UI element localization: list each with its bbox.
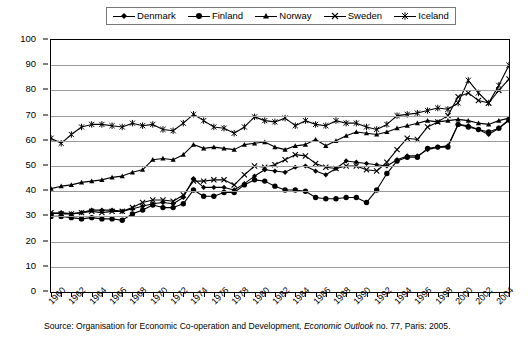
y-tick-mark xyxy=(43,39,48,40)
legend-item-sweden[interactable]: Sweden xyxy=(324,11,382,21)
legend-label: Sweden xyxy=(348,11,382,21)
asterisk-icon xyxy=(394,11,416,21)
source-text-lead: Source: Organisation for Economic Co-ope… xyxy=(44,321,304,331)
y-tick-label: 20 xyxy=(25,236,36,246)
y-tick-label: 40 xyxy=(25,185,36,195)
plot-area xyxy=(50,39,510,293)
grid-line xyxy=(51,65,509,66)
grid-line xyxy=(51,90,509,91)
grid-line xyxy=(51,242,509,243)
y-tick-label: 90 xyxy=(25,59,36,69)
y-tick-mark xyxy=(43,165,48,166)
triangle-icon xyxy=(255,11,277,21)
y-tick-mark xyxy=(43,291,48,292)
legend-item-denmark[interactable]: Denmark xyxy=(113,11,176,21)
legend-label: Denmark xyxy=(137,11,176,21)
chart-legend: DenmarkFinlandNorwaySwedenIceland xyxy=(106,7,456,25)
legend-label: Finland xyxy=(212,11,243,21)
legend-item-iceland[interactable]: Iceland xyxy=(394,11,449,21)
y-tick-label: 80 xyxy=(25,85,36,95)
cross-marker xyxy=(332,13,338,19)
y-tick-mark xyxy=(43,215,48,216)
y-axis-tick-labels: 0102030405060708090100 xyxy=(0,32,48,300)
grid-line xyxy=(51,116,509,117)
y-tick-label: 50 xyxy=(25,160,36,170)
circle-marker xyxy=(196,13,202,19)
diamond-icon xyxy=(113,11,135,21)
asterisk-marker xyxy=(402,12,408,20)
y-tick-label: 100 xyxy=(20,34,36,44)
grid-lines xyxy=(51,40,509,292)
legend-item-finland[interactable]: Finland xyxy=(188,11,243,21)
legend-label: Norway xyxy=(279,11,311,21)
y-tick-mark xyxy=(43,139,48,140)
y-tick-label: 0 xyxy=(31,286,36,296)
legend-label: Iceland xyxy=(418,11,449,21)
y-tick-label: 10 xyxy=(25,261,36,271)
y-tick-label: 30 xyxy=(25,211,36,221)
grid-line xyxy=(51,166,509,167)
grid-line xyxy=(51,141,509,142)
source-text-italic: Economic Outlook xyxy=(304,321,374,331)
triangle-marker xyxy=(263,13,269,18)
y-tick-mark xyxy=(43,89,48,90)
cross-icon xyxy=(324,11,346,21)
y-tick-mark xyxy=(43,114,48,115)
chart-container: DenmarkFinlandNorwaySwedenIceland (X+M)/… xyxy=(0,0,529,342)
grid-line xyxy=(51,191,509,192)
grid-line xyxy=(51,216,509,217)
y-tick-mark xyxy=(43,265,48,266)
y-tick-label: 70 xyxy=(25,110,36,120)
grid-line xyxy=(51,267,509,268)
y-tick-label: 60 xyxy=(25,135,36,145)
y-tick-mark xyxy=(43,240,48,241)
circle-icon xyxy=(188,11,210,21)
legend-item-norway[interactable]: Norway xyxy=(255,11,311,21)
y-tick-mark xyxy=(43,64,48,65)
source-text-tail: no. 77, Paris: 2005. xyxy=(374,321,451,331)
source-note: Source: Organisation for Economic Co-ope… xyxy=(44,321,514,331)
diamond-marker xyxy=(121,13,127,19)
y-tick-mark xyxy=(43,190,48,191)
